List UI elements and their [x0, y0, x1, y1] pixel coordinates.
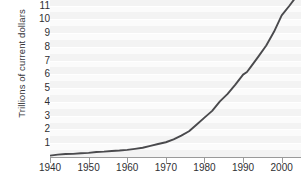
x-tick-label: 1980 — [184, 162, 224, 173]
y-axis-title: Trillions of current dollars — [16, 0, 27, 129]
y-tick-label: 9 — [28, 28, 50, 38]
y-tick-label: 1 — [28, 138, 50, 148]
x-tick-label: 1940 — [30, 162, 70, 173]
x-tick-label: 2000 — [262, 162, 301, 173]
x-tick-label: 1970 — [146, 162, 186, 173]
y-tick-label: 6 — [28, 69, 50, 79]
gdp-line-chart: Trillions of current dollars 12345678910… — [0, 0, 301, 174]
y-tick-label: 7 — [28, 56, 50, 66]
y-tick-label: 11 — [28, 1, 50, 11]
y-axis-tick-labels: 1234567891011 — [28, 0, 50, 174]
y-tick-label: 10 — [28, 14, 50, 24]
x-tick-label: 1950 — [69, 162, 109, 173]
y-tick-label: 4 — [28, 97, 50, 107]
plot-area — [50, 0, 301, 157]
x-tick-label: 1990 — [223, 162, 263, 173]
y-tick-label: 3 — [28, 111, 50, 121]
x-axis-tick-labels: 1940195019601970198019902000 — [50, 162, 301, 174]
y-tick-label: 2 — [28, 124, 50, 134]
x-tick-label: 1960 — [107, 162, 147, 173]
y-tick-label: 5 — [28, 83, 50, 93]
data-series-layer — [50, 0, 301, 157]
series-line-gross-domestic-product — [50, 0, 301, 156]
y-tick-label: 8 — [28, 42, 50, 52]
